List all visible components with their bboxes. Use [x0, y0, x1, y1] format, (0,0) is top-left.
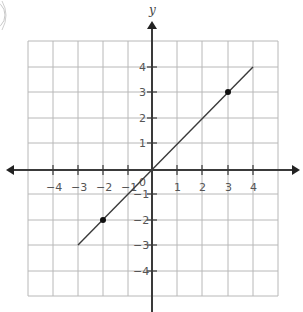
- point-3-3: [225, 89, 231, 95]
- y-label-2: 2: [139, 112, 146, 125]
- x-axis-right-arrow-icon: [292, 165, 300, 175]
- x-label-neg2: −2: [96, 181, 112, 194]
- y-label-1: 1: [139, 137, 146, 150]
- y-label-3: 3: [139, 86, 146, 99]
- x-label-1: 1: [174, 181, 181, 194]
- y-label-neg2: −2: [133, 214, 149, 227]
- x-axis-left-arrow-icon: [6, 165, 14, 175]
- y-label-neg1: −1: [133, 188, 149, 201]
- x-label-neg4: −4: [46, 181, 62, 194]
- x-label-neg3: −3: [71, 181, 87, 194]
- x-label-3: 3: [225, 181, 232, 194]
- x-label-4: 4: [250, 181, 257, 194]
- coordinate-plane: y −4 −3 −2 −1 0 1 2 3 4 4 3 2 1: [0, 0, 303, 312]
- point-neg2-neg2: [100, 217, 106, 223]
- x-label-2: 2: [199, 181, 206, 194]
- y-label-4: 4: [139, 61, 146, 74]
- y-label-neg4: −4: [133, 265, 149, 278]
- y-axis-label: y: [148, 3, 156, 17]
- y-label-neg3: −3: [133, 239, 149, 252]
- y-axis-up-arrow-icon: [147, 21, 157, 29]
